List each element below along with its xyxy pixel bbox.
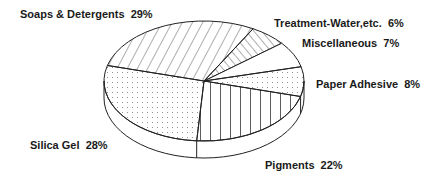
slice-label: Soaps & Detergents 29%	[20, 8, 153, 20]
pie-chart: Pigments 22%Silica Gel 28%Soaps & Deterg…	[0, 0, 446, 179]
slice-label: Paper Adhesive 8%	[316, 78, 420, 90]
pie-top-face	[104, 21, 304, 141]
slice-label: Silica Gel 28%	[30, 139, 108, 151]
slice-label: Pigments 22%	[265, 159, 343, 171]
slice-label: Treatment-Water,etc. 6%	[274, 17, 404, 29]
slice-label: Miscellaneous 7%	[302, 37, 399, 49]
